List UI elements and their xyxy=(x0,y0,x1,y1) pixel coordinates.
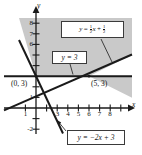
y-tick-minus2: -2 xyxy=(20,125,33,133)
x-tick-8: 8 xyxy=(107,110,114,118)
point-label-5-3: (5, 3) xyxy=(91,79,107,88)
x-tick-4: 4 xyxy=(65,110,72,118)
eq1-equals: = xyxy=(84,26,88,33)
x-tick-1: 1 xyxy=(22,110,29,118)
equation-shallow-line: y = 1 2 x + 1 2 xyxy=(79,25,106,34)
x-tick-6: 6 xyxy=(86,110,93,118)
x-axis-label: x xyxy=(132,100,135,109)
x-tick-5: 5 xyxy=(75,110,82,118)
point-label-0-3: (0, 3) xyxy=(11,79,27,88)
eq1-frac-b-denominator: 2 xyxy=(103,29,105,34)
graph-figure: y x 1 3 4 5 6 7 8 8 7 6 1 -2 (0, 3) (5, … xyxy=(0,0,142,155)
equation-horizontal-line: y = 3 xyxy=(62,54,78,62)
equation-callout-horizontal-line: y = 3 xyxy=(52,51,87,64)
point-5-3-marker xyxy=(88,75,91,78)
x-tick-7: 7 xyxy=(96,110,103,118)
y-axis-label: y xyxy=(37,1,40,10)
eq1-lhs: y xyxy=(79,26,82,33)
eq1-variable: x xyxy=(93,26,96,33)
eq1-plus: + xyxy=(97,26,101,33)
equation-callout-shallow-line: y = 1 2 x + 1 2 xyxy=(61,21,124,38)
y-tick-8: 8 xyxy=(25,19,33,27)
y-tick-7: 7 xyxy=(25,30,33,38)
y-tick-1: 1 xyxy=(25,93,33,101)
equation-callout-steep-line: y = −2x + 3 xyxy=(67,130,125,145)
y-tick-6: 6 xyxy=(25,40,33,48)
eq1-fraction-one-half-b: 1 2 xyxy=(103,25,105,34)
x-tick-3: 3 xyxy=(54,110,61,118)
equation-steep-line: y = −2x + 3 xyxy=(78,134,115,142)
point-0-3-marker xyxy=(35,75,38,78)
